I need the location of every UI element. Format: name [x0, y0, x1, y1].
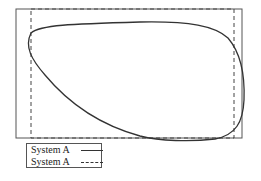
solid-line-sample-icon — [81, 150, 103, 151]
dashed-system-boundary — [31, 9, 234, 138]
solid-system-curve — [28, 22, 244, 141]
legend-entry-solid: System A — [31, 144, 70, 156]
legend-label: System A — [31, 144, 70, 155]
dashed-line-sample-icon — [81, 162, 103, 163]
legend-entry-dashed: System A — [31, 156, 70, 168]
legend-label: System A — [31, 156, 70, 167]
legend: System A System A — [26, 143, 102, 168]
outer-frame — [16, 9, 242, 138]
